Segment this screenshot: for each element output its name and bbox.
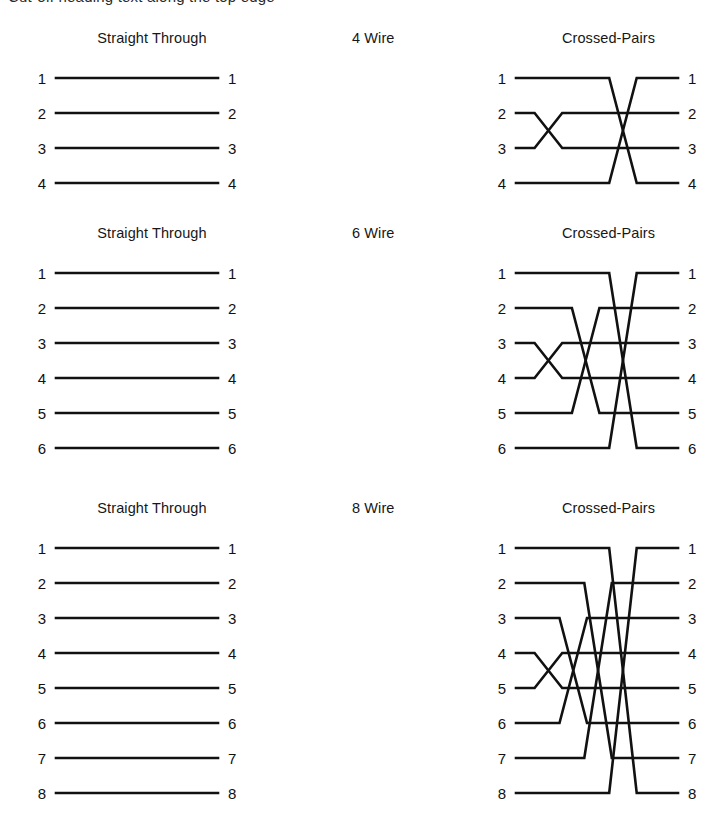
pin-label-right: 4 bbox=[688, 370, 696, 387]
pin-label-left: 6 bbox=[38, 715, 46, 732]
pin-label-right: 4 bbox=[228, 370, 236, 387]
pin-label-left: 3 bbox=[498, 610, 506, 627]
pin-label-right: 3 bbox=[688, 140, 696, 157]
pin-label-right: 4 bbox=[688, 175, 696, 192]
straight-through-panel: Straight Through11223344 bbox=[22, 30, 282, 209]
pin-label-right: 1 bbox=[688, 70, 696, 87]
crossed-pairs-wires: 11223344 bbox=[492, 56, 724, 209]
pin-label-right: 6 bbox=[688, 440, 696, 457]
pin-label-right: 5 bbox=[228, 680, 236, 697]
pin-label-right: 2 bbox=[228, 300, 236, 317]
crossed-pairs-wire-area: 1122334455667788 bbox=[492, 526, 725, 819]
pin-label-left: 2 bbox=[38, 575, 46, 592]
pin-label-left: 8 bbox=[498, 785, 506, 802]
pin-label-right: 1 bbox=[688, 540, 696, 557]
pin-label-left: 4 bbox=[498, 175, 506, 192]
straight-through-wires: 112233445566 bbox=[22, 251, 254, 474]
pin-label-left: 6 bbox=[38, 440, 46, 457]
pin-label-left: 3 bbox=[498, 335, 506, 352]
pin-label-right: 7 bbox=[688, 750, 696, 767]
pin-label-left: 5 bbox=[498, 680, 506, 697]
pin-label-right: 8 bbox=[688, 785, 696, 802]
straight-through-title: Straight Through bbox=[22, 500, 282, 516]
pin-label-left: 4 bbox=[38, 175, 46, 192]
straight-through-wires: 11223344 bbox=[22, 56, 254, 209]
crossed-pairs-title: Crossed-Pairs bbox=[492, 30, 725, 46]
pin-label-left: 1 bbox=[498, 70, 506, 87]
wire-path bbox=[516, 273, 678, 448]
pin-label-left: 3 bbox=[38, 610, 46, 627]
pin-label-right: 1 bbox=[688, 265, 696, 282]
pin-label-right: 3 bbox=[688, 610, 696, 627]
pin-label-right: 6 bbox=[688, 715, 696, 732]
wire-path bbox=[516, 308, 678, 413]
straight-through-wire-area: 112233445566 bbox=[22, 251, 282, 474]
pin-label-left: 4 bbox=[498, 645, 506, 662]
wire-count-panel: 8 Wire bbox=[352, 500, 472, 516]
pin-label-left: 4 bbox=[38, 645, 46, 662]
straight-through-title: Straight Through bbox=[22, 225, 282, 241]
pin-label-left: 3 bbox=[498, 140, 506, 157]
crossed-pairs-title: Crossed-Pairs bbox=[492, 225, 725, 241]
wire-count-label: 8 Wire bbox=[352, 500, 472, 516]
wire-count-label: 4 Wire bbox=[352, 30, 472, 46]
pin-label-right: 1 bbox=[228, 70, 236, 87]
pin-label-left: 7 bbox=[38, 750, 46, 767]
straight-through-panel: Straight Through1122334455667788 bbox=[22, 500, 282, 819]
pin-label-right: 6 bbox=[228, 715, 236, 732]
pin-label-left: 1 bbox=[498, 265, 506, 282]
pin-label-left: 1 bbox=[38, 265, 46, 282]
crossed-pairs-panel: Crossed-Pairs11223344 bbox=[492, 30, 725, 209]
pin-label-right: 3 bbox=[228, 335, 236, 352]
pin-label-right: 5 bbox=[688, 405, 696, 422]
pin-label-right: 2 bbox=[228, 105, 236, 122]
pin-label-left: 2 bbox=[38, 300, 46, 317]
pin-label-right: 8 bbox=[228, 785, 236, 802]
pin-label-left: 1 bbox=[38, 540, 46, 557]
straight-through-wire-area: 11223344 bbox=[22, 56, 282, 209]
wire-path bbox=[516, 78, 678, 183]
pin-label-right: 3 bbox=[228, 140, 236, 157]
pin-label-right: 3 bbox=[688, 335, 696, 352]
crossed-pairs-panel: Crossed-Pairs112233445566 bbox=[492, 225, 725, 474]
pin-label-left: 4 bbox=[498, 370, 506, 387]
crossed-pairs-wire-area: 112233445566 bbox=[492, 251, 725, 474]
pin-label-left: 3 bbox=[38, 335, 46, 352]
crossed-pairs-title: Crossed-Pairs bbox=[492, 500, 725, 516]
pin-label-left: 7 bbox=[498, 750, 506, 767]
pin-label-left: 2 bbox=[498, 105, 506, 122]
pin-label-left: 2 bbox=[498, 575, 506, 592]
straight-through-wires: 1122334455667788 bbox=[22, 526, 254, 819]
pin-label-right: 2 bbox=[688, 105, 696, 122]
pin-label-left: 2 bbox=[498, 300, 506, 317]
wire-path bbox=[516, 78, 678, 183]
wire-path bbox=[516, 583, 678, 758]
pin-label-left: 6 bbox=[498, 440, 506, 457]
pin-label-left: 5 bbox=[498, 405, 506, 422]
pin-label-right: 6 bbox=[228, 440, 236, 457]
pin-label-left: 5 bbox=[38, 405, 46, 422]
pin-label-right: 4 bbox=[228, 175, 236, 192]
crossed-pairs-wires: 112233445566 bbox=[492, 251, 724, 474]
pin-label-left: 2 bbox=[38, 105, 46, 122]
pin-label-right: 7 bbox=[228, 750, 236, 767]
crossed-pairs-wires: 1122334455667788 bbox=[492, 526, 724, 819]
pin-label-left: 5 bbox=[38, 680, 46, 697]
pin-label-left: 3 bbox=[38, 140, 46, 157]
wire-count-panel: 6 Wire bbox=[352, 225, 472, 241]
pin-label-left: 6 bbox=[498, 715, 506, 732]
crossed-pairs-wire-area: 11223344 bbox=[492, 56, 725, 209]
pin-label-right: 5 bbox=[228, 405, 236, 422]
pin-label-right: 3 bbox=[228, 610, 236, 627]
straight-through-wire-area: 1122334455667788 bbox=[22, 526, 282, 819]
pin-label-right: 2 bbox=[688, 575, 696, 592]
straight-through-title: Straight Through bbox=[22, 30, 282, 46]
pin-label-right: 2 bbox=[228, 575, 236, 592]
wire-path bbox=[516, 308, 678, 413]
pin-label-left: 8 bbox=[38, 785, 46, 802]
pin-label-right: 1 bbox=[228, 540, 236, 557]
pin-label-right: 4 bbox=[228, 645, 236, 662]
pin-label-right: 1 bbox=[228, 265, 236, 282]
wire-path bbox=[516, 273, 678, 448]
pin-label-left: 1 bbox=[498, 540, 506, 557]
